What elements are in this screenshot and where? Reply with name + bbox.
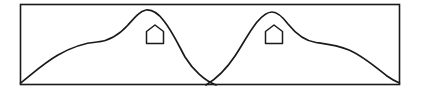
figure-canvas — [0, 0, 421, 95]
figure-border — [21, 5, 400, 85]
figure-container — [0, 0, 421, 95]
